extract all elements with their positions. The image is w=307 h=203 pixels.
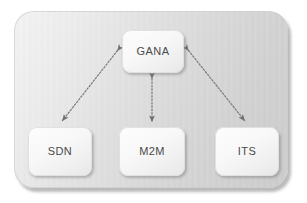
- node-sdn-label: SDN: [48, 146, 72, 157]
- node-m2m-label: M2M: [139, 146, 165, 157]
- node-gana-label: GANA: [137, 46, 170, 57]
- node-gana[interactable]: GANA: [122, 30, 184, 73]
- node-sdn[interactable]: SDN: [28, 127, 92, 176]
- node-m2m[interactable]: M2M: [119, 127, 185, 176]
- node-its[interactable]: ITS: [215, 127, 279, 176]
- node-its-label: ITS: [238, 146, 256, 157]
- diagram-canvas: GANA SDN M2M ITS: [0, 0, 307, 203]
